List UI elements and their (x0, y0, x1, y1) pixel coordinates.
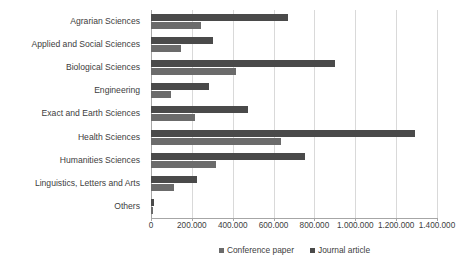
x-axis-line (151, 218, 438, 219)
gridline (437, 10, 438, 218)
category-label: Linguistics, Letters and Arts (0, 172, 146, 195)
bar-journal-article (151, 106, 248, 113)
bar-group (151, 172, 437, 195)
category-label: Humanities Sciences (0, 149, 146, 172)
bar-group (151, 79, 437, 102)
legend-label: Conference paper (227, 245, 294, 255)
category-label: Health Sciences (0, 126, 146, 149)
x-tick-label: 0 (149, 221, 154, 230)
plot-area (151, 10, 437, 218)
bar-chart: Agrarian SciencesApplied and Social Scie… (0, 0, 472, 270)
legend-label: Journal article (318, 245, 370, 255)
bar-rows (151, 10, 437, 218)
x-tick-mark (396, 218, 397, 221)
bar-group (151, 149, 437, 172)
x-tick-mark (233, 218, 234, 221)
bar-conference-paper (151, 45, 181, 52)
category-label: Biological Sciences (0, 56, 146, 79)
bar-journal-article (151, 83, 209, 90)
bar-journal-article (151, 153, 305, 160)
bar-journal-article (151, 60, 335, 67)
bar-conference-paper (151, 91, 171, 98)
x-tick-label: 600.000 (259, 221, 289, 230)
legend-swatch-icon (219, 248, 224, 253)
bar-conference-paper (151, 68, 236, 75)
bar-conference-paper (151, 184, 174, 191)
bar-group (151, 195, 437, 218)
legend-swatch-icon (310, 248, 315, 253)
bar-group (151, 10, 437, 33)
bar-group (151, 56, 437, 79)
bar-journal-article (151, 130, 415, 137)
x-tick-mark (151, 218, 152, 221)
bar-journal-article (151, 14, 288, 21)
x-tick-mark (437, 218, 438, 221)
x-tick-mark (192, 218, 193, 221)
bar-conference-paper (151, 22, 201, 29)
bar-conference-paper (151, 207, 153, 214)
category-label: Applied and Social Sciences (0, 33, 146, 56)
bar-journal-article (151, 37, 213, 44)
bar-group (151, 126, 437, 149)
x-tick-label: 1.000.000 (337, 221, 373, 230)
category-label: Engineering (0, 79, 146, 102)
bar-conference-paper (151, 138, 281, 145)
bar-group (151, 102, 437, 125)
chart-legend: Conference paperJournal article (151, 245, 438, 255)
x-tick-label: 200.000 (177, 221, 207, 230)
bar-journal-article (151, 199, 154, 206)
bar-group (151, 33, 437, 56)
x-tick-mark (314, 218, 315, 221)
legend-item[interactable]: Journal article (310, 245, 370, 255)
x-tick-label: 1.400.000 (419, 221, 455, 230)
bar-conference-paper (151, 161, 216, 168)
x-tick-label: 1.200.000 (378, 221, 414, 230)
legend-item[interactable]: Conference paper (219, 245, 294, 255)
x-axis-ticks: 0200.000400.000600.000800.0001.000.0001.… (0, 221, 472, 235)
x-tick-label: 800.000 (300, 221, 330, 230)
category-label: Agrarian Sciences (0, 10, 146, 33)
category-axis: Agrarian SciencesApplied and Social Scie… (0, 10, 146, 218)
bar-journal-article (151, 176, 197, 183)
category-label: Exact and Earth Sciences (0, 102, 146, 125)
x-tick-mark (355, 218, 356, 221)
category-label: Others (0, 195, 146, 218)
x-tick-mark (274, 218, 275, 221)
x-tick-label: 400.000 (218, 221, 248, 230)
bar-conference-paper (151, 114, 195, 121)
